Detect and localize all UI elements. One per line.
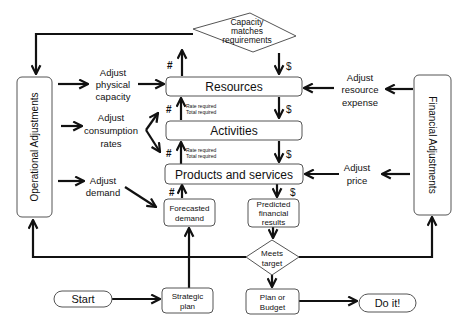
adjust-price-label: Adjust price — [344, 162, 371, 186]
forecast-line-1: Forecasted — [169, 204, 209, 213]
predicted-line-3: results — [262, 218, 286, 227]
cons-line-2: consumption — [84, 125, 138, 136]
total-required-lower: Total required — [186, 153, 217, 159]
hash-2: # — [166, 104, 172, 115]
expense-line-1: Adjust — [347, 72, 374, 83]
expense-line-2: resource — [342, 84, 379, 95]
cons-line-1: Adjust — [98, 112, 125, 123]
hash-1: # — [167, 60, 173, 71]
capacity-check-diamond: Capacity matches requirements — [193, 13, 296, 52]
flowchart-canvas: Capacity matches requirements Resources … — [0, 0, 466, 328]
edge-meets-to-financial — [299, 217, 432, 257]
do-it-label: Do it! — [375, 297, 401, 309]
dollar-2: $ — [286, 104, 292, 115]
start-label: Start — [71, 293, 94, 305]
meets-target-diamond: Meets target — [246, 240, 299, 275]
resources-node: Resources — [166, 77, 302, 96]
predicted-line-2: financial — [259, 209, 289, 218]
resources-label: Resources — [205, 80, 262, 94]
dollar-3: $ — [286, 149, 292, 160]
phys-line-1: Adjust — [100, 67, 127, 78]
meets-line-2: target — [262, 259, 283, 268]
edge-consumption-to-products — [146, 130, 160, 152]
price-line-1: Adjust — [344, 162, 371, 173]
predicted-results-node: Predicted financial results — [248, 199, 299, 227]
strategic-line-2: plan — [180, 302, 195, 311]
operational-adjustments-label: Operational Adjustments — [29, 93, 40, 202]
adjust-consumption-rates-label: Adjust consumption rates — [84, 112, 138, 149]
demand-line-2: demand — [86, 187, 120, 198]
strategic-line-1: Strategic — [172, 292, 204, 301]
plan-budget-node: Plan or Budget — [246, 289, 299, 314]
meets-line-1: Meets — [261, 249, 283, 258]
edge-meets-to-operational — [33, 220, 246, 257]
strategic-plan-node: Strategic plan — [162, 288, 213, 313]
dollar-1: $ — [286, 61, 292, 72]
plan-line-1: Plan or — [260, 293, 286, 302]
cons-line-3: rates — [100, 138, 121, 149]
plan-line-2: Budget — [260, 303, 286, 312]
financial-adjustments-label: Financial Adjustments — [427, 96, 438, 193]
phys-line-3: capacity — [96, 91, 131, 102]
activities-node: Activities — [166, 121, 302, 140]
edge-consumption-to-activities — [146, 113, 158, 130]
forecasted-demand-node: Forecasted demand — [164, 199, 215, 226]
hash-4: # — [169, 187, 175, 198]
edge-demand-to-forecast — [125, 187, 156, 207]
demand-line-1: Adjust — [90, 175, 117, 186]
operational-adjustments-node: Operational Adjustments — [17, 77, 52, 217]
phys-line-2: physical — [96, 79, 130, 90]
price-line-2: price — [347, 175, 368, 186]
activities-label: Activities — [210, 124, 257, 138]
total-required-upper: Total required — [186, 109, 217, 115]
financial-adjustments-node: Financial Adjustments — [414, 75, 451, 215]
expense-line-3: expense — [342, 97, 378, 108]
dollar-4: $ — [290, 187, 296, 198]
adjust-demand-label: Adjust demand — [86, 175, 120, 198]
adjust-physical-capacity-label: Adjust physical capacity — [96, 67, 131, 102]
predicted-line-1: Predicted — [257, 200, 291, 209]
rate-note-upper: Rate required Total required — [186, 103, 217, 115]
capacity-line-3: requirements — [222, 35, 272, 45]
forecast-line-2: demand — [175, 214, 204, 223]
rate-note-lower: Rate required Total required — [186, 147, 217, 159]
adjust-resource-expense-label: Adjust resource expense — [342, 72, 379, 108]
start-terminal: Start — [54, 291, 112, 307]
do-it-terminal: Do it! — [359, 294, 416, 312]
products-services-label: Products and services — [175, 168, 293, 182]
products-services-node: Products and services — [165, 164, 303, 184]
hash-3: # — [166, 148, 172, 159]
